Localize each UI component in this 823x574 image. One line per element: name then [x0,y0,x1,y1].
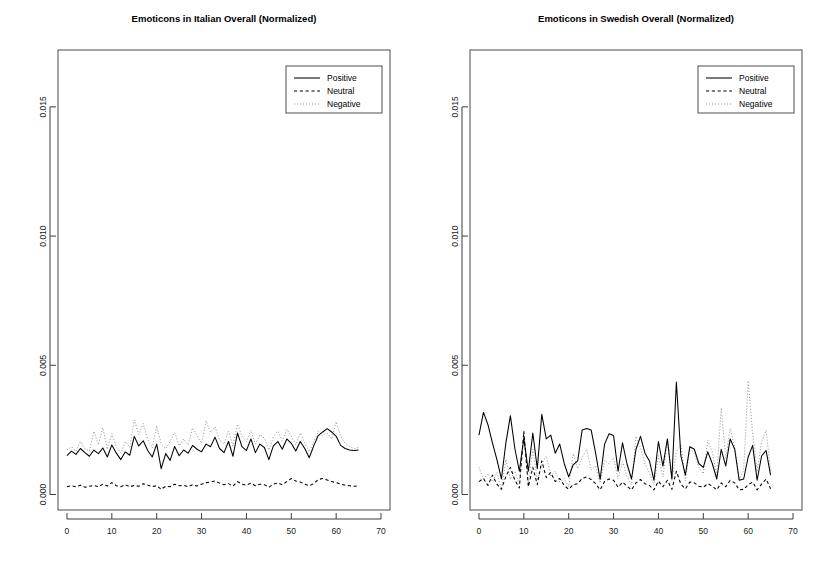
x-tick-label: 40 [242,526,252,536]
x-tick-label: 10 [107,526,117,536]
series-line-negative [478,381,770,490]
data-series-group [478,381,770,490]
x-tick-label: 70 [788,526,798,536]
y-tick-label: 0.010 [38,225,48,247]
legend-label-neutral: Neutral [739,86,767,96]
chart-title: Emoticons in Swedish Overall (Normalized… [538,13,734,24]
x-tick-label: 30 [197,526,207,536]
legend-label-neutral: Neutral [327,86,355,96]
legend-label-positive: Positive [739,73,769,83]
x-tick-label: 60 [743,526,753,536]
y-tick-label: 0.005 [450,354,460,376]
x-tick-label: 50 [698,526,708,536]
x-tick-label: 30 [608,526,618,536]
x-tick-label: 20 [152,526,162,536]
y-tick-label: 0.005 [38,354,48,376]
legend-label-negative: Negative [739,99,773,109]
y-tick-label: 0.015 [450,96,460,118]
x-tick-label: 10 [519,526,529,536]
x-axis: 010203040506070 [476,513,797,536]
x-tick-label: 40 [653,526,663,536]
data-series-group [67,420,359,489]
series-line-positive [67,429,359,469]
series-line-neutral [67,478,359,489]
chart-panel-italian: Emoticons in Italian Overall (Normalized… [0,0,412,574]
legend: PositiveNeutralNegative [286,66,382,113]
y-axis: 0.0000.0050.0100.015 [38,96,56,505]
y-tick-label: 0.015 [38,96,48,118]
x-tick-label: 60 [331,526,341,536]
x-axis: 010203040506070 [65,513,386,536]
legend-label-positive: Positive [327,73,357,83]
figure-container: Emoticons in Italian Overall (Normalized… [0,0,823,574]
plot-frame [58,50,390,510]
legend: PositiveNeutralNegative [698,66,794,113]
legend-label-negative: Negative [327,99,361,109]
chart-panel-swedish: Emoticons in Swedish Overall (Normalized… [412,0,823,574]
y-tick-label: 0.000 [450,484,460,506]
x-tick-label: 50 [287,526,297,536]
y-tick-label: 0.010 [450,225,460,247]
x-tick-label: 20 [563,526,573,536]
x-tick-label: 70 [376,526,386,536]
y-axis: 0.0000.0050.0100.015 [450,96,468,505]
y-tick-label: 0.000 [38,484,48,506]
series-line-positive [478,382,770,480]
chart-title: Emoticons in Italian Overall (Normalized… [132,13,317,24]
x-tick-label: 0 [65,526,70,536]
x-tick-label: 0 [476,526,481,536]
